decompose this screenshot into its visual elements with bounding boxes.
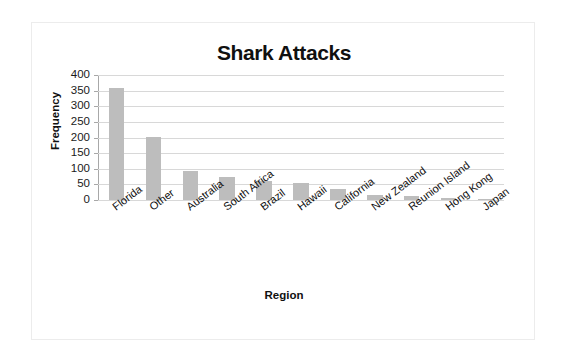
x-axis-title: Region (32, 289, 536, 301)
y-axis-tick-label: 300 (56, 100, 90, 112)
y-axis-tick (94, 75, 98, 76)
y-axis-tick (94, 106, 98, 107)
bar (146, 137, 162, 200)
y-axis-tick (94, 200, 98, 201)
gridline (98, 106, 504, 107)
y-axis-tick (94, 169, 98, 170)
gridline (98, 122, 504, 123)
y-axis-tick-label: 200 (56, 132, 90, 144)
y-axis-tick-label: 150 (56, 147, 90, 159)
y-axis-tick-label: 350 (56, 85, 90, 97)
gridline (98, 75, 504, 76)
y-axis-tick (94, 153, 98, 154)
x-axis-tick-labels: FloridaOtherAustraliaSouth AfricaBrazilH… (98, 203, 518, 303)
y-axis-tick (94, 122, 98, 123)
bar (109, 88, 125, 201)
y-axis-tick-label: 250 (56, 116, 90, 128)
y-axis-tick-label: 50 (56, 178, 90, 190)
y-axis-tick (94, 91, 98, 92)
chart-frame: Shark Attacks Frequency 0501001502002503… (31, 22, 535, 340)
y-axis-tick (94, 184, 98, 185)
chart-title: Shark Attacks (32, 41, 536, 65)
y-axis-tick-label: 400 (56, 69, 90, 81)
y-axis-tick (94, 138, 98, 139)
gridline (98, 91, 504, 92)
screenshot-canvas: Shark Attacks Frequency 0501001502002503… (0, 0, 562, 354)
y-axis-tick-label: 0 (56, 194, 90, 206)
y-axis-tick-label: 100 (56, 163, 90, 175)
